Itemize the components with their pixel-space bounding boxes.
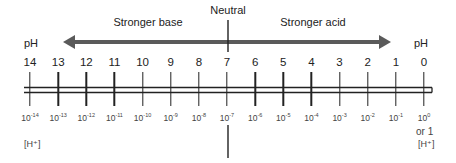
ph-value: 0 [421, 56, 427, 68]
h-exponent: -10 [143, 112, 151, 118]
ph-value: 3 [336, 56, 342, 68]
ph-value: 6 [252, 56, 258, 68]
ph-value: 7 [224, 56, 230, 68]
ph-value: 8 [196, 56, 202, 68]
ph-axis-label-left: pH [24, 37, 38, 49]
ph-value: 1 [393, 56, 399, 68]
scale-tick [170, 72, 171, 106]
h-concentration: 100 [418, 112, 431, 123]
h-exponent: -5 [286, 112, 291, 118]
scale-tick [226, 72, 227, 106]
h-concentration: 10-13 [49, 112, 66, 123]
scale-tick [57, 72, 58, 106]
ph-value: 13 [52, 56, 65, 68]
h-axis-label-left: [H⁺] [24, 139, 41, 149]
h-axis-label-right: [H⁺] [418, 139, 435, 149]
h-concentration: 10-9 [164, 112, 178, 123]
h-exponent: -7 [229, 112, 234, 118]
h-exponent: -11 [115, 112, 123, 118]
h-exponent: -8 [201, 112, 206, 118]
scale-graphics [0, 0, 456, 163]
scale-tick [29, 72, 30, 106]
h-concentration: 10-6 [248, 112, 262, 123]
h-zero-or-one: or 1 [416, 126, 433, 137]
acid-arrow-head-icon [379, 35, 391, 49]
h-exponent: -2 [370, 112, 375, 118]
h-exponent: -9 [173, 112, 178, 118]
h-concentration: 10-3 [332, 112, 346, 123]
scale-tick [114, 72, 115, 106]
h-exponent: -4 [314, 112, 319, 118]
stronger-base-label: Stronger base [113, 16, 182, 28]
h-concentration: 10-14 [21, 112, 38, 123]
ph-value: 11 [108, 56, 120, 68]
ph-value: 2 [365, 56, 371, 68]
stronger-acid-label: Stronger acid [280, 16, 345, 28]
h-concentration: 10-2 [361, 112, 375, 123]
ph-value: 14 [24, 56, 37, 68]
scale-tick [423, 72, 424, 106]
h-concentration: 10-1 [389, 112, 403, 123]
scale-tick [198, 72, 199, 106]
h-concentration: 10-11 [106, 112, 123, 123]
scale-tick [339, 72, 340, 106]
scale-tick [283, 72, 284, 106]
h-exponent: -6 [257, 112, 262, 118]
h-concentration: 10-12 [78, 112, 95, 123]
ph-axis-label-right: pH [414, 37, 428, 49]
h-concentration: 10-7 [220, 112, 234, 123]
scale-tick [311, 72, 312, 106]
ph-value: 4 [308, 56, 314, 68]
ph-value: 5 [280, 56, 286, 68]
h-concentration: 10-10 [134, 112, 151, 123]
h-concentration: 10-4 [304, 112, 318, 123]
ph-value: 12 [80, 56, 93, 68]
h-exponent: 0 [427, 112, 430, 118]
h-concentration: 10-5 [276, 112, 290, 123]
scale-tick [86, 72, 87, 106]
scale-tick [367, 72, 368, 106]
ph-value: 9 [168, 56, 174, 68]
base-arrow-head-icon [63, 35, 75, 49]
neutral-label: Neutral [210, 4, 245, 16]
ph-value: 10 [136, 56, 149, 68]
h-concentration: 10-8 [192, 112, 206, 123]
h-exponent: -3 [342, 112, 347, 118]
scale-tick [395, 72, 396, 106]
h-exponent: -12 [87, 112, 95, 118]
h-exponent: -1 [398, 112, 403, 118]
h-exponent: -13 [59, 112, 67, 118]
h-exponent: -14 [31, 112, 39, 118]
scale-tick [254, 72, 255, 106]
scale-tick [142, 72, 143, 106]
